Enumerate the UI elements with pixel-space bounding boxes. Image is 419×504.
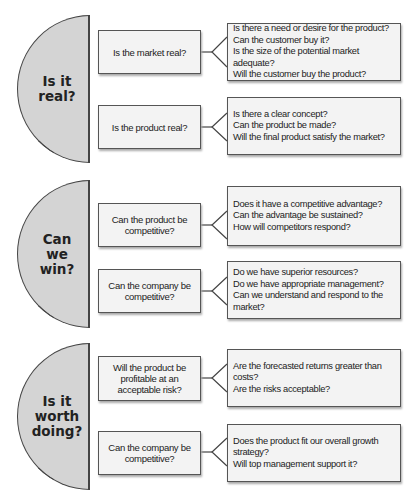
section-title: Is it real?	[30, 74, 75, 104]
question-label: Can the product be competitive?	[112, 214, 187, 236]
detail-line: Will the final product satisfy the marke…	[233, 132, 395, 144]
question-box: Is the product real?	[98, 105, 201, 149]
question-box: Will the product be profitable at an acc…	[98, 356, 201, 401]
detail-line: Does it have a competitive advantage?	[233, 199, 395, 211]
question-label: Can the company be competitive?	[108, 280, 190, 302]
detail-line: strategy?	[233, 447, 395, 459]
section-title: Can we win?	[32, 232, 75, 277]
detail-line: Will the customer buy the product?	[233, 69, 395, 81]
detail-line: Do we have superior resources?	[233, 267, 395, 279]
detail-line: Does the product fit our overall growth	[233, 436, 395, 448]
detail-box: Are the forecasted returns greater than …	[227, 349, 401, 407]
detail-box: Does the product fit our overall growth …	[227, 424, 401, 482]
question-box: Can the company be competitive?	[98, 431, 201, 475]
detail-line: How will competitors respond?	[233, 222, 395, 234]
question-label: Is the product real?	[112, 122, 187, 133]
question-label: Can the company be competitive?	[108, 442, 190, 464]
detail-box: Does it have a competitive advantage? Ca…	[227, 186, 401, 246]
detail-line: Can the product be made?	[233, 120, 395, 132]
question-label: Will the product be profitable at an acc…	[113, 362, 186, 395]
question-box: Is the market real?	[98, 30, 201, 74]
detail-line: Is there a clear concept?	[233, 109, 395, 121]
question-box: Can the product be competitive?	[98, 203, 201, 247]
detail-box: Is there a clear concept? Can the produc…	[227, 97, 401, 155]
detail-line: Do we have appropriate management?	[233, 279, 395, 291]
question-label: Is the market real?	[113, 47, 186, 58]
detail-line: Are the forecasted returns greater than …	[233, 361, 395, 384]
section-title: Is it worth doing?	[24, 394, 83, 439]
detail-line: Can the customer buy it?	[233, 35, 395, 47]
detail-line: Is there a need or desire for the produc…	[233, 23, 395, 35]
question-box: Can the company be competitive?	[98, 269, 201, 313]
detail-line: Can the advantage be sustained?	[233, 210, 395, 222]
detail-box: Do we have superior resources? Do we hav…	[227, 261, 401, 319]
detail-line: Are the risks acceptable?	[233, 384, 395, 396]
detail-line: Can we understand and respond to the mar…	[233, 290, 395, 313]
detail-box: Is there a need or desire for the produc…	[227, 23, 401, 81]
detail-line: Will top management support it?	[233, 459, 395, 471]
detail-line: Is the size of the potential market adeq…	[233, 46, 395, 69]
